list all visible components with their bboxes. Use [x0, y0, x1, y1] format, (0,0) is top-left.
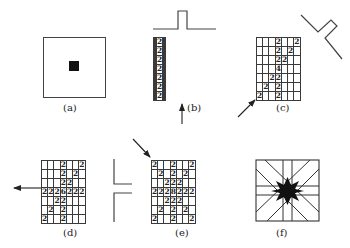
- slit-c: [301, 15, 342, 59]
- arrow-diagonal-down-icon: [133, 139, 150, 157]
- arrow-diagonal-up-icon: [238, 100, 255, 117]
- slit-b: [153, 11, 216, 29]
- star-diagram-f: [256, 160, 319, 221]
- line-art-overlay: [0, 0, 350, 248]
- slit-d-upper: [114, 159, 132, 184]
- star-icon: [271, 177, 304, 205]
- slit-d-lower: [114, 193, 132, 222]
